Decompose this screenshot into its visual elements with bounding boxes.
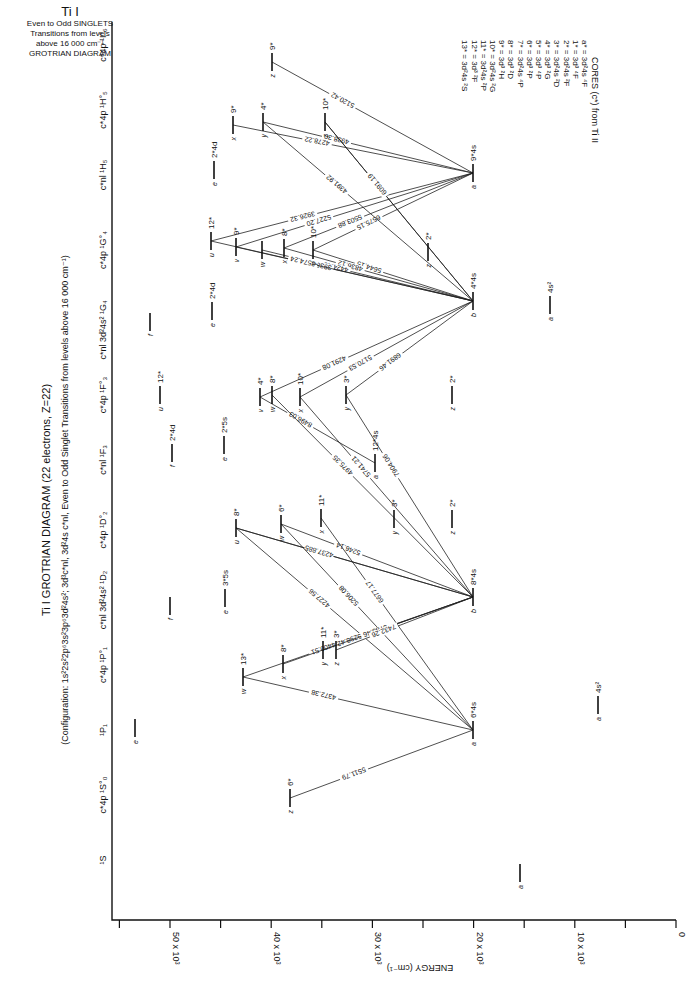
level-label: z bbox=[269, 74, 276, 79]
energy-level: z10* bbox=[321, 98, 330, 139]
level-label: z bbox=[425, 264, 432, 269]
energy-level: e2*4d bbox=[210, 142, 219, 186]
level-core: 4s² bbox=[594, 682, 603, 693]
transition: 4291.08 bbox=[260, 301, 473, 397]
wavelength-label: 5511.79 bbox=[341, 766, 367, 781]
axis-tick-label: 50 x 10³ bbox=[171, 932, 181, 965]
legend-item: 13* = 3d²4s ²S bbox=[460, 40, 469, 91]
wavelength-label: 4372.38 bbox=[310, 689, 336, 702]
energy-level: w13* bbox=[239, 653, 248, 694]
level-core: 2* bbox=[448, 375, 457, 383]
level-label: f bbox=[167, 617, 174, 620]
level-label: z bbox=[333, 662, 340, 667]
wavelength-label: 4391.92 bbox=[325, 173, 349, 195]
level-label: b bbox=[470, 313, 477, 317]
column-label: c*4p ¹I°₆ bbox=[98, 28, 108, 62]
energy-level: z2* bbox=[448, 499, 457, 535]
level-label: e bbox=[222, 610, 229, 614]
legend-item: 12* = 3d³ ²F bbox=[470, 40, 479, 83]
level-label: y bbox=[310, 262, 318, 267]
energy-level: u12* bbox=[207, 217, 216, 257]
level-label: z bbox=[449, 531, 456, 536]
level-core: 4*4s bbox=[469, 273, 478, 289]
level-label: e bbox=[209, 323, 216, 327]
level-label: a bbox=[470, 185, 477, 189]
level-label: x bbox=[318, 530, 325, 535]
level-core: 3* bbox=[342, 375, 351, 383]
level-core: 8* bbox=[268, 375, 277, 383]
legend-item: 2* = 3d²4s ²F bbox=[562, 40, 571, 87]
energy-level: x11* bbox=[317, 495, 326, 535]
energy-level: x9* bbox=[229, 105, 238, 141]
level-core: 10* bbox=[321, 98, 330, 110]
transition: 4278.22 bbox=[233, 125, 473, 173]
column-label: c*4p ¹G°₄ bbox=[98, 231, 108, 269]
transition: 5246.14 bbox=[281, 524, 473, 597]
level-label: w bbox=[269, 406, 276, 412]
axis-tick-label: 30 x 10³ bbox=[373, 932, 383, 965]
level-label: a bbox=[547, 317, 554, 321]
level-label: a bbox=[595, 717, 602, 721]
level-label: w bbox=[259, 261, 266, 267]
level-label: v bbox=[233, 259, 240, 263]
subtitle: (Configuration: 1s²2s²2p⁶3s²3p⁶3d²4s²; 3… bbox=[60, 255, 70, 745]
level-label: u bbox=[157, 407, 164, 411]
transition: 4391.92 bbox=[263, 122, 473, 301]
transition: 6783.46 bbox=[323, 597, 473, 650]
transition: 4975.35 bbox=[272, 395, 473, 597]
energy-levels: az6*ea6*4sw13*x8*y11*z3*fe3*5sb8*4sa4s²u… bbox=[132, 42, 603, 888]
axis-label: ENERGY (cm⁻¹) bbox=[387, 963, 453, 973]
wavelength-label: 6091.19 bbox=[366, 172, 388, 196]
level-core: 3* bbox=[390, 499, 399, 507]
axis-tick-label: 10 x 10³ bbox=[576, 932, 586, 965]
level-label: y bbox=[320, 662, 328, 667]
wavelength-label: 6891.46 bbox=[378, 351, 403, 372]
transition: 5227.20 bbox=[236, 173, 473, 247]
level-core: 2* bbox=[424, 232, 433, 240]
axis-tick-label: 0 bbox=[677, 932, 687, 937]
legend-item: 6* = 3d³ ²P bbox=[525, 40, 534, 78]
level-label: z bbox=[287, 810, 294, 815]
level-core: 12* bbox=[156, 371, 165, 383]
level-core: 11* bbox=[317, 495, 326, 506]
cores-legend: CORES (c*) from Ti IIa* = 3d²4s ⁴F1* = 3… bbox=[460, 40, 600, 143]
energy-level: e bbox=[132, 719, 139, 744]
column-label: ¹S bbox=[98, 856, 108, 865]
energy-level: e3*5s bbox=[221, 570, 230, 614]
energy-level: w8* bbox=[268, 375, 277, 412]
transition: 5511.79 bbox=[290, 730, 473, 798]
column-label: ¹P₁ bbox=[98, 724, 108, 736]
level-core: 4* bbox=[256, 377, 265, 385]
grotrian-diagram: Ti I GROTRIAN DIAGRAM (22 electrons, Z=2… bbox=[0, 0, 688, 1000]
level-core: 8*4s bbox=[469, 569, 478, 585]
level-core: 9* bbox=[268, 42, 277, 50]
energy-level: e2*4d bbox=[208, 283, 217, 327]
energy-level: f bbox=[167, 597, 174, 620]
level-label: w bbox=[278, 535, 285, 541]
level-core: 3* bbox=[332, 630, 341, 638]
column-label: c*4p ¹P°₁ bbox=[98, 647, 108, 683]
transition: 5120.42 bbox=[272, 62, 473, 173]
column-label: c*4p ¹H°₅ bbox=[98, 91, 108, 129]
legend-item: 11* = 3d²4s ²P bbox=[479, 40, 488, 91]
legend-item: 5* = 3d³ ⁴P bbox=[534, 40, 543, 79]
level-core: 11* bbox=[319, 627, 328, 638]
column-label: c*nl ¹F₃ bbox=[98, 445, 108, 475]
axis-tick-label: 40 x 10³ bbox=[272, 932, 282, 965]
energy-level: w bbox=[259, 241, 266, 267]
level-core: 10* bbox=[309, 226, 318, 238]
level-label: a bbox=[517, 885, 524, 889]
level-label: f bbox=[169, 464, 176, 467]
level-core: 2*4d bbox=[210, 142, 219, 158]
transition: 3926.32 bbox=[211, 173, 473, 241]
energy-level: a4s² bbox=[594, 682, 603, 721]
wavelength-label: 4237.885 bbox=[304, 544, 334, 559]
energy-level: f2*4d bbox=[168, 425, 177, 467]
transition: 4372.38 bbox=[243, 677, 473, 730]
level-core: 8* bbox=[279, 644, 288, 652]
legend-item: 8* = 3d³ ²D bbox=[506, 40, 515, 79]
energy-level: b4*4s bbox=[469, 273, 478, 317]
energy-level: a9*4s bbox=[469, 145, 478, 189]
level-label: e bbox=[211, 182, 218, 186]
level-core: 8* bbox=[280, 228, 289, 236]
